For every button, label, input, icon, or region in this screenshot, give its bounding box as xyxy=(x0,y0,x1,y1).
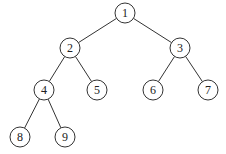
tree-node-2: 2 xyxy=(60,38,80,58)
binary-tree-diagram: 123456789 xyxy=(0,0,226,154)
tree-node-1: 1 xyxy=(115,3,135,23)
tree-node-3: 3 xyxy=(170,38,190,58)
edge-1-3 xyxy=(133,18,171,42)
tree-node-6: 6 xyxy=(143,80,163,100)
node-label: 4 xyxy=(41,83,47,97)
tree-node-9: 9 xyxy=(55,127,75,147)
edge-1-2 xyxy=(78,18,116,42)
node-label: 2 xyxy=(67,41,73,55)
tree-node-5: 5 xyxy=(87,80,107,100)
node-label: 3 xyxy=(177,41,183,55)
node-label: 1 xyxy=(122,6,128,20)
edge-2-5 xyxy=(75,56,91,81)
node-label: 6 xyxy=(150,83,156,97)
edge-2-4 xyxy=(49,57,64,82)
edge-4-8 xyxy=(25,99,40,128)
node-label: 7 xyxy=(205,83,211,97)
edge-4-9 xyxy=(48,99,61,128)
tree-node-8: 8 xyxy=(10,127,30,147)
tree-node-4: 4 xyxy=(34,80,54,100)
node-label: 5 xyxy=(94,83,100,97)
edge-3-6 xyxy=(158,56,174,81)
tree-node-7: 7 xyxy=(198,80,218,100)
node-label: 9 xyxy=(62,130,68,144)
node-label: 8 xyxy=(17,130,23,144)
edge-3-7 xyxy=(186,56,203,81)
tree-nodes: 123456789 xyxy=(10,3,218,147)
tree-edges xyxy=(25,18,203,128)
